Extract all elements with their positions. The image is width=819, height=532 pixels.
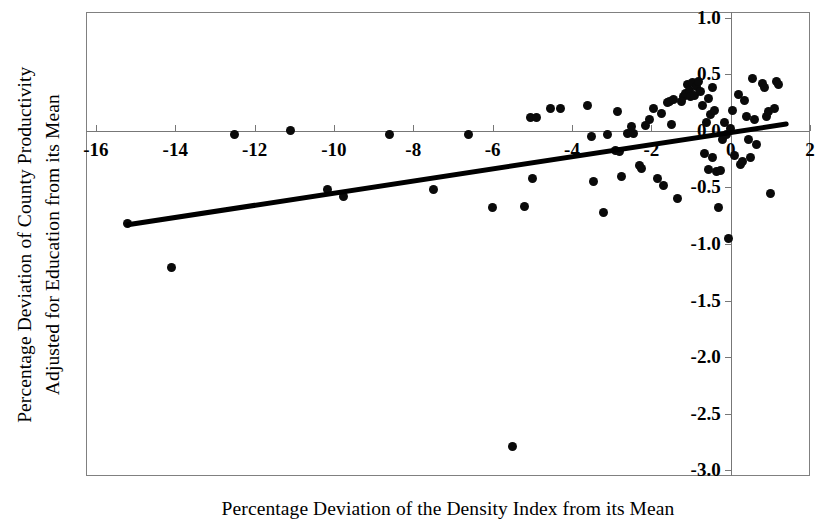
plot-area: -16-14-12-10-8-6-4-2021.00.50.0-0.5-1.0-…: [86, 12, 810, 476]
y-axis-title-line-1: Percentage Deviation of County Productiv…: [11, 67, 39, 423]
x-axis-title: Percentage Deviation of the Density Inde…: [85, 498, 811, 520]
y-axis-title: Percentage Deviation of County Productiv…: [0, 0, 78, 490]
y-axis-title-text: Percentage Deviation of County Productiv…: [11, 67, 66, 423]
trendline-overlay: [86, 12, 810, 476]
regression-trendline: [128, 124, 787, 225]
x-tick: [810, 125, 811, 131]
scatter-plot-figure: Percentage Deviation of County Productiv…: [0, 0, 819, 532]
y-axis-title-line-2: Adjusted for Education from its Mean: [39, 67, 67, 423]
